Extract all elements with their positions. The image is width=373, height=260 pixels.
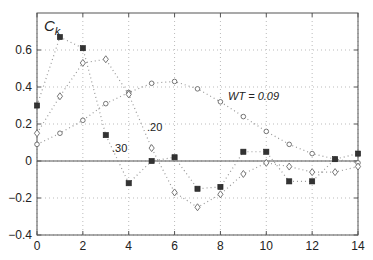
tick-labels: 02468101214−0.4−0.200.20.40.6 — [8, 43, 365, 253]
svg-text:0: 0 — [25, 154, 32, 168]
svg-text:10: 10 — [260, 239, 274, 253]
data-series — [34, 34, 360, 210]
svg-text:12: 12 — [305, 239, 319, 253]
svg-text:0.6: 0.6 — [15, 43, 32, 57]
svg-text:0: 0 — [34, 239, 41, 253]
y-axis-label: Ck — [44, 17, 61, 37]
svg-text:0.2: 0.2 — [15, 117, 32, 131]
svg-text:14: 14 — [351, 239, 365, 253]
series-label-20: .20 — [147, 121, 162, 133]
series-label-30: .30 — [112, 142, 127, 154]
wt-label: WT = 0.09 — [228, 90, 279, 102]
svg-text:2: 2 — [80, 239, 87, 253]
svg-text:−0.4: −0.4 — [8, 228, 32, 242]
svg-text:8: 8 — [217, 239, 224, 253]
svg-text:4: 4 — [125, 239, 132, 253]
svg-text:0.4: 0.4 — [15, 80, 32, 94]
svg-text:6: 6 — [171, 239, 178, 253]
chart: 02468101214−0.4−0.200.20.40.6 Ck WT = 0.… — [0, 0, 373, 260]
svg-text:−0.2: −0.2 — [8, 191, 32, 205]
